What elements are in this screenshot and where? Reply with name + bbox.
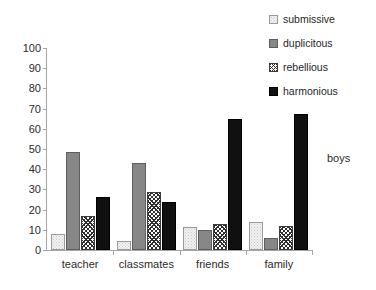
bar-teacher-harmonious[interactable] bbox=[96, 197, 110, 250]
bar-teacher-rebellious[interactable] bbox=[81, 216, 95, 250]
bar-family-duplicitous[interactable] bbox=[264, 238, 278, 250]
bar-group-teacher: teacher bbox=[47, 48, 113, 250]
chart-annotation: boys bbox=[327, 152, 350, 164]
bar-chart: submissiveduplicitousrebelliousharmoniou… bbox=[0, 0, 376, 290]
bar-classmates-submissive[interactable] bbox=[117, 241, 131, 250]
bar-group-classmates: classmates bbox=[113, 48, 179, 250]
bar-classmates-harmonious[interactable] bbox=[162, 202, 176, 250]
bar-group-bars bbox=[47, 48, 113, 250]
x-axis-label-family: family bbox=[246, 258, 312, 270]
y-tick-label: 60 bbox=[29, 123, 41, 134]
y-tick-mark bbox=[43, 250, 47, 251]
bar-classmates-rebellious[interactable] bbox=[147, 192, 161, 250]
bar-family-submissive[interactable] bbox=[249, 222, 263, 250]
y-tick-label: 0 bbox=[35, 245, 41, 256]
bar-classmates-duplicitous[interactable] bbox=[132, 163, 146, 250]
bar-group-bars bbox=[180, 48, 246, 250]
x-axis-group-separator bbox=[113, 250, 114, 255]
legend-swatch-duplicitous bbox=[269, 39, 278, 48]
legend-item-submissive[interactable]: submissive bbox=[269, 8, 376, 30]
x-axis-label-classmates: classmates bbox=[113, 258, 179, 270]
plot-area: 1009080706050403020100 teacherclassmates… bbox=[47, 48, 312, 250]
bar-friends-rebellious[interactable] bbox=[213, 224, 227, 250]
bar-friends-submissive[interactable] bbox=[183, 227, 197, 250]
bar-group-bars bbox=[246, 48, 312, 250]
y-tick-label: 40 bbox=[29, 164, 41, 175]
bar-friends-duplicitous[interactable] bbox=[198, 230, 212, 250]
bar-family-rebellious[interactable] bbox=[279, 226, 293, 250]
bar-group-family: family bbox=[246, 48, 312, 250]
legend-swatch-submissive bbox=[269, 15, 278, 24]
bar-family-harmonious[interactable] bbox=[294, 114, 308, 250]
legend-label: submissive bbox=[283, 14, 335, 25]
bar-teacher-submissive[interactable] bbox=[51, 234, 65, 250]
x-axis-label-teacher: teacher bbox=[47, 258, 113, 270]
x-axis-group-separator bbox=[246, 250, 247, 255]
legend-label: duplicitous bbox=[283, 38, 333, 49]
y-tick-label: 10 bbox=[29, 224, 41, 235]
y-tick-label: 90 bbox=[29, 63, 41, 74]
bar-friends-harmonious[interactable] bbox=[228, 119, 242, 250]
y-tick-label: 70 bbox=[29, 103, 41, 114]
y-tick-label: 20 bbox=[29, 204, 41, 215]
y-tick-label: 30 bbox=[29, 184, 41, 195]
y-tick-label: 100 bbox=[23, 43, 41, 54]
bar-teacher-duplicitous[interactable] bbox=[66, 152, 80, 250]
x-axis-group-separator bbox=[180, 250, 181, 255]
x-axis-group-separator bbox=[312, 250, 313, 255]
bar-group-bars bbox=[113, 48, 179, 250]
y-tick-label: 50 bbox=[29, 144, 41, 155]
y-tick-label: 80 bbox=[29, 83, 41, 94]
x-axis-label-friends: friends bbox=[180, 258, 246, 270]
bar-group-friends: friends bbox=[180, 48, 246, 250]
